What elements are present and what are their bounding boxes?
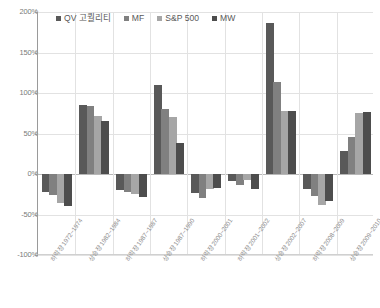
bar (64, 174, 72, 206)
bar-group (187, 12, 224, 254)
legend-swatch-icon (56, 16, 61, 21)
legend-swatch-icon (124, 16, 129, 21)
y-tick-label: 0% (4, 169, 38, 178)
bar (251, 174, 259, 189)
legend-item: QV 고퀄리티 (56, 14, 111, 23)
y-tick-mark (35, 255, 38, 256)
legend-label: MF (132, 14, 144, 23)
y-tick-label: 150% (4, 48, 38, 57)
bar-chart: 200%150%100%50%0%-50%-100% 하락장 1972~1974… (0, 0, 380, 308)
y-tick-mark (35, 134, 38, 135)
legend-swatch-icon (212, 16, 217, 21)
chart-legend: QV 고퀄리티MFS&P 500MW (56, 14, 235, 23)
y-tick-label: -100% (4, 250, 38, 259)
legend-label: S&P 500 (165, 14, 199, 23)
legend-label: MW (220, 14, 235, 23)
bar (139, 174, 147, 197)
y-tick-label: 100% (4, 88, 38, 97)
y-tick-label: 200% (4, 7, 38, 16)
bar-group (38, 12, 75, 254)
y-tick-mark (35, 174, 38, 175)
legend-item: S&P 500 (157, 14, 199, 23)
bar (325, 174, 333, 201)
bar (176, 143, 184, 174)
legend-swatch-icon (157, 16, 162, 21)
bar-group (75, 12, 112, 254)
bar (363, 112, 371, 174)
y-tick-mark (35, 215, 38, 216)
plot-area (37, 12, 373, 255)
y-tick-label: -50% (4, 210, 38, 219)
bar (288, 111, 296, 174)
bar (101, 121, 109, 174)
y-tick-mark (35, 53, 38, 54)
y-tick-mark (35, 93, 38, 94)
bar (213, 174, 221, 188)
y-tick-label: 50% (4, 129, 38, 138)
legend-item: MW (212, 14, 235, 23)
bar-group (299, 12, 336, 254)
legend-label: QV 고퀄리티 (64, 14, 111, 23)
legend-item: MF (124, 14, 144, 23)
y-tick-mark (35, 12, 38, 13)
